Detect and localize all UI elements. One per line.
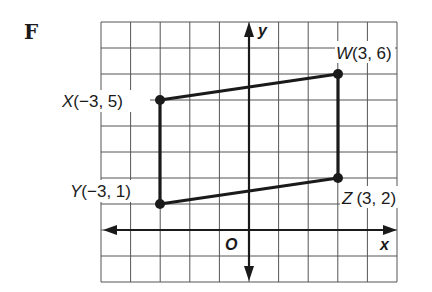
x-axis-right-arrow-icon	[383, 225, 397, 235]
label-W: W(3, 6)	[336, 44, 392, 63]
y-axis-label: y	[257, 22, 268, 39]
label-X: X(−3, 5)	[61, 92, 123, 111]
point-X	[155, 95, 165, 105]
coordinate-plane: W(3, 6) X(−3, 5) Y(−3, 1) Z(3, 2) y x O	[0, 0, 432, 292]
x-axis-left-arrow-icon	[103, 225, 117, 235]
point-W	[333, 69, 343, 79]
origin-label: O	[225, 236, 238, 253]
y-axis-up-arrow-icon	[244, 22, 254, 37]
x-axis-label: x	[379, 236, 390, 253]
label-Z: Z(3, 2)	[341, 189, 396, 208]
point-Z	[333, 173, 343, 183]
point-Y	[155, 199, 165, 209]
label-Y: Y(−3, 1)	[70, 182, 131, 201]
y-axis-down-arrow-icon	[244, 266, 254, 281]
